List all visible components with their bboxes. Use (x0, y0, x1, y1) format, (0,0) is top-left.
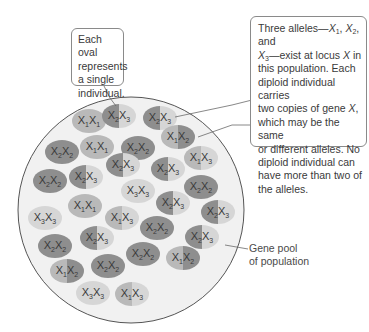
gene-pool-label-line: Gene pool (249, 242, 309, 255)
individual-oval: X1X2 (50, 259, 84, 283)
allele-symbol: X (343, 49, 350, 61)
individual-oval: X2X3 (80, 226, 114, 250)
individual-oval: X1X2 (161, 125, 195, 149)
oval-note-line: individual. (78, 87, 119, 100)
allele-symbol: X2 (345, 22, 356, 34)
individual-oval: X2X3 (102, 104, 136, 128)
gene-pool-label-line: of population (249, 255, 309, 268)
alleles-note-callout: Three alleles—X1, X2, and X3—exist at lo… (250, 16, 367, 147)
gene-pool-label: Gene pool of population (249, 242, 309, 268)
individual-oval: X2X3 (201, 200, 235, 224)
text-run: —exist at locus (269, 49, 343, 61)
individual-oval: X3X3 (121, 179, 155, 203)
text-run: which may be the same (258, 116, 340, 141)
text-run: have more than two of (258, 169, 362, 181)
individual-oval: X1X3 (184, 146, 218, 170)
text-run: Three alleles— (258, 22, 329, 34)
allele-symbol: X1 (329, 22, 340, 34)
text-run: diploid individual carries (258, 76, 335, 101)
individual-oval: X2X2 (91, 254, 125, 278)
allele-symbol: X3 (258, 49, 269, 61)
oval-note-line: a single (78, 73, 119, 86)
individual-oval: X1X3 (115, 282, 149, 306)
text-run: , (356, 102, 359, 114)
alleles-note-text: Three alleles—X1, X2, and X3—exist at lo… (258, 22, 362, 196)
individual-oval: X2X2 (184, 175, 218, 199)
individual-oval: X3X3 (28, 206, 62, 230)
individual-oval: X1X3 (105, 206, 139, 230)
alleles-note-leader-1 (175, 100, 252, 117)
individual-oval: X1X2 (166, 246, 200, 270)
text-run: this population. Each (258, 62, 355, 74)
oval-note-line: Each oval (78, 33, 119, 60)
oval-note-line: represents (78, 60, 119, 73)
individual-oval: X2X3 (151, 157, 185, 181)
individual-oval: X1X1 (80, 135, 114, 159)
text-run: or different alleles. No (258, 143, 360, 155)
individual-oval: X2X3 (156, 191, 190, 215)
individual-oval: X2X3 (185, 225, 219, 249)
individual-oval: X2X2 (33, 169, 67, 193)
individual-oval: X1X1 (68, 194, 102, 218)
individual-oval: X2X2 (38, 234, 72, 258)
individual-oval: X3X3 (76, 281, 110, 305)
individual-oval: X2X2 (45, 140, 79, 164)
text-run: in (350, 49, 361, 61)
individual-oval: X2X3 (106, 153, 140, 177)
text-run: diploid individual can (258, 156, 355, 168)
individual-oval: X2X2 (126, 242, 160, 266)
text-run: two copies of gene (258, 102, 348, 114)
individual-oval: X2X3 (69, 165, 103, 189)
text-run: the alleles. (258, 183, 308, 195)
individual-oval: X1X1 (72, 109, 106, 133)
allele-symbol: X (348, 102, 355, 114)
oval-note-callout: Each oval represents a single individual… (71, 28, 124, 86)
individual-oval: X2X2 (140, 216, 174, 240)
